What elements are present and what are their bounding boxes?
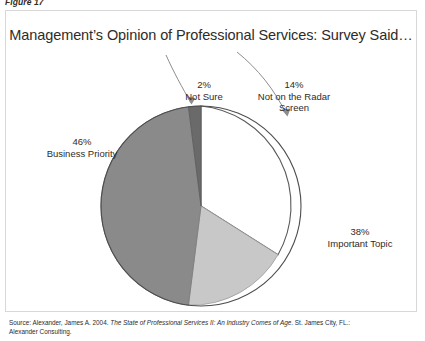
source-prefix: Source: Alexander, James A. 2004.: [9, 319, 110, 326]
source-title: The State of Professional Services II: A…: [110, 319, 291, 326]
pie-label-not-on-the-radar-screen-name: Not on the Radar Screen: [246, 91, 342, 114]
pie-label-business-priority-pct: 46%: [28, 136, 136, 148]
pie-label-business-priority-name: Business Priority: [28, 148, 136, 160]
pie-label-not-sure-pct: 2%: [168, 79, 240, 91]
source-line2: Alexander Consulting.: [9, 328, 421, 337]
figure-caption: Figure 17: [5, 0, 44, 7]
chart-frame: Management’s Opinion of Professional Ser…: [5, 10, 417, 312]
pie-label-not-on-the-radar-screen: 14% Not on the Radar Screen: [246, 79, 342, 114]
pie-chart-svg: [6, 11, 418, 313]
source-suffix: . St. James City, FL.:: [291, 319, 350, 326]
pie-label-important-topic-name: Important Topic: [306, 238, 414, 250]
pie-label-important-topic: 38% Important Topic: [306, 226, 414, 249]
pie-label-business-priority: 46% Business Priority: [28, 136, 136, 159]
pie-label-not-sure: 2% Not Sure: [168, 79, 240, 102]
source-note: Source: Alexander, James A. 2004. The St…: [9, 319, 421, 336]
pie-label-not-sure-name: Not Sure: [168, 91, 240, 103]
pie-label-not-on-the-radar-screen-pct: 14%: [246, 79, 342, 91]
pie-chart: [6, 11, 418, 313]
pie-label-important-topic-pct: 38%: [306, 226, 414, 238]
